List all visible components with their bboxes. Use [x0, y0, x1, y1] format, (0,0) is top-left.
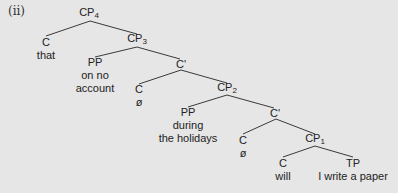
node-c-that: C that	[37, 36, 55, 62]
node-cp1: CP1	[305, 132, 325, 148]
edge-cbar-c	[139, 70, 181, 84]
node-pp-during-the-holidays: PP during the holidays	[159, 106, 218, 145]
tree-diagram-panel: (ii) CP4 C that CP3 PP on no account C' …	[0, 0, 398, 193]
node-cbar-1: C'	[176, 58, 186, 71]
node-c-will: C will	[275, 157, 290, 183]
edge-cp3-cbar	[137, 47, 180, 59]
node-cbar-2: C'	[270, 107, 280, 120]
node-cp2: CP2	[217, 81, 237, 97]
node-tp: TP I write a paper	[318, 157, 388, 183]
node-cp3: CP3	[127, 32, 147, 48]
edge-cp4-c	[46, 21, 90, 36]
edge-cbar2-c	[243, 119, 276, 134]
node-pp-on-no-account: PP on no account	[76, 56, 115, 95]
node-cp4: CP4	[79, 6, 99, 22]
node-c-null-1: C ø	[135, 83, 143, 109]
node-c-null-2: C ø	[239, 134, 247, 160]
